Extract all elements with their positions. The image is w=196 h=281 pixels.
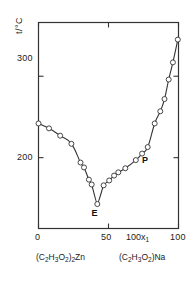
plot-canvas <box>0 0 196 281</box>
x-axis-title-main: 100x <box>126 232 146 242</box>
left-formula-sub-4: 2 <box>71 256 75 263</box>
data-point <box>82 165 87 170</box>
data-point <box>166 77 171 82</box>
x-tick-label-50: 50 <box>101 232 112 242</box>
data-point <box>158 109 163 114</box>
right-component-formula: (C2H3O2)Na <box>119 252 165 263</box>
peritectic-label: P <box>142 155 148 165</box>
x-tick-label-0: 0 <box>35 232 40 242</box>
left-formula-sub-1: 2 <box>45 256 49 263</box>
data-point <box>89 182 94 187</box>
right-formula-sub-3: 2 <box>148 256 152 263</box>
y-tick-label-200: 200 <box>17 152 33 162</box>
left-component-formula: (C2H3O2)2Zn <box>36 252 85 263</box>
axis-ticks <box>39 23 179 229</box>
y-tick-label-300: 300 <box>17 53 33 63</box>
right-formula-sub-1: 2 <box>128 256 132 263</box>
data-point <box>123 166 128 171</box>
data-point <box>152 121 157 126</box>
data-point <box>78 160 83 165</box>
data-point <box>47 126 52 131</box>
phase-diagram-figure: t/°C 300 200 0 50 100 100x1 (C2H3O2)2Zn … <box>0 0 196 281</box>
data-point <box>101 183 106 188</box>
data-markers <box>36 37 180 206</box>
data-point <box>58 133 63 138</box>
data-point <box>36 121 41 126</box>
y-axis-title: t/°C <box>14 17 24 34</box>
data-point <box>86 177 91 182</box>
data-point <box>162 97 167 102</box>
data-point <box>175 37 180 42</box>
data-point <box>145 145 150 150</box>
eutectic-label: E <box>92 208 98 218</box>
data-point <box>116 170 121 175</box>
left-formula-sub-3: 2 <box>65 256 69 263</box>
data-point <box>95 202 100 207</box>
data-point <box>107 178 112 183</box>
data-point <box>69 141 74 146</box>
x-axis-title: 100x1 <box>126 232 149 243</box>
left-formula-sub-2: 3 <box>55 256 59 263</box>
x-axis-title-subscript: 1 <box>146 236 150 243</box>
x-tick-label-100: 100 <box>170 232 186 242</box>
data-point <box>133 158 138 163</box>
plot-frame <box>39 23 179 229</box>
right-formula-sub-2: 3 <box>138 256 142 263</box>
data-point <box>170 60 175 65</box>
